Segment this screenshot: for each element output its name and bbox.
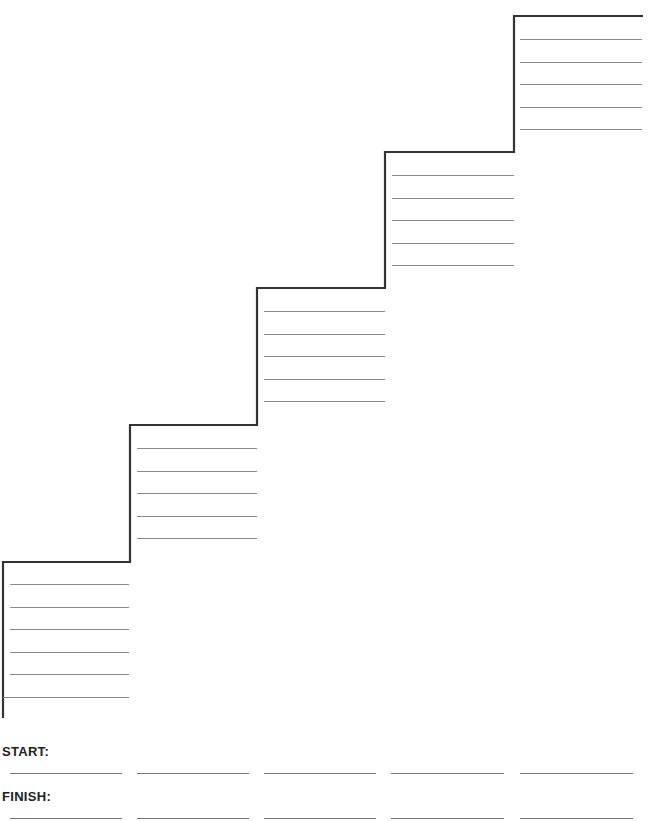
step-4-line[interactable]	[392, 220, 514, 221]
step-2-line[interactable]	[137, 471, 257, 472]
step-5-line[interactable]	[520, 39, 642, 40]
start-blank-2[interactable]	[137, 773, 249, 774]
step-4-line[interactable]	[392, 175, 514, 176]
finish-label: FINISH:	[2, 789, 51, 804]
step-1-line[interactable]	[10, 607, 129, 608]
step-1-line[interactable]	[3, 697, 129, 698]
finish-blank-2[interactable]	[137, 818, 249, 819]
step-5-line[interactable]	[520, 62, 642, 63]
start-blank-1[interactable]	[10, 773, 122, 774]
step-3-line[interactable]	[264, 379, 385, 380]
start-blank-5[interactable]	[520, 773, 633, 774]
step-5-line[interactable]	[520, 107, 642, 108]
step-1-line[interactable]	[10, 629, 129, 630]
step-4-line[interactable]	[392, 243, 514, 244]
step-1-line[interactable]	[10, 652, 129, 653]
start-label: START:	[2, 744, 49, 759]
step-5-line[interactable]	[520, 129, 642, 130]
step-3-line[interactable]	[264, 401, 385, 402]
finish-blank-3[interactable]	[264, 818, 376, 819]
start-blank-3[interactable]	[264, 773, 376, 774]
step-4-line[interactable]	[392, 198, 514, 199]
step-4-line[interactable]	[392, 265, 514, 266]
start-blank-4[interactable]	[391, 773, 504, 774]
finish-blank-4[interactable]	[391, 818, 504, 819]
step-1-line[interactable]	[10, 584, 129, 585]
finish-blank-1[interactable]	[10, 818, 122, 819]
step-3-line[interactable]	[264, 311, 385, 312]
step-3-line[interactable]	[264, 334, 385, 335]
step-2-line[interactable]	[137, 538, 257, 539]
step-2-line[interactable]	[137, 516, 257, 517]
finish-blank-5[interactable]	[520, 818, 633, 819]
step-2-line[interactable]	[137, 493, 257, 494]
step-3-line[interactable]	[264, 356, 385, 357]
step-2-line[interactable]	[137, 448, 257, 449]
step-5-line[interactable]	[520, 84, 642, 85]
step-1-line[interactable]	[10, 674, 129, 675]
